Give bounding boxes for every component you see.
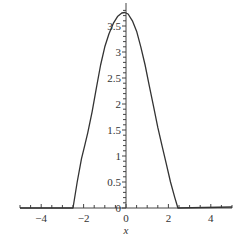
y-ticks: 00.511.522.533.5 xyxy=(107,10,126,214)
y-tick-label: 2.5 xyxy=(107,72,121,84)
axes: −4−2024 00.511.522.533.5 xyxy=(20,3,232,224)
x-tick-label: 2 xyxy=(166,212,172,224)
x-tick-label: 0 xyxy=(123,212,129,224)
y-tick-label: 2 xyxy=(116,98,122,110)
x-tick-label: 4 xyxy=(208,212,214,224)
y-tick-label: 0.5 xyxy=(107,176,121,188)
y-tick-label: 1.5 xyxy=(107,124,121,136)
y-tick-label: 0 xyxy=(116,202,122,214)
x-axis-label: x xyxy=(123,224,129,236)
y-tick-label: 3 xyxy=(116,46,122,58)
line-chart: −4−2024 00.511.522.533.5 x xyxy=(0,0,246,250)
y-tick-label: 1 xyxy=(116,150,122,162)
x-tick-label: −2 xyxy=(78,212,90,224)
x-tick-label: −4 xyxy=(35,212,47,224)
